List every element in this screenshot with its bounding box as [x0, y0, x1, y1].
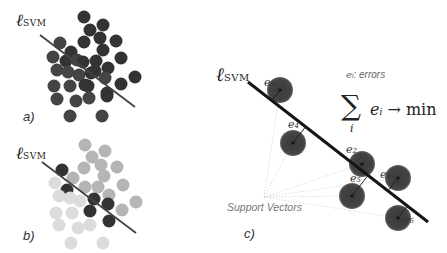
data-point	[101, 90, 114, 103]
data-point	[88, 193, 101, 206]
data-point	[129, 71, 142, 84]
data-point	[99, 72, 112, 85]
data-point	[53, 190, 66, 203]
data-point	[72, 222, 85, 235]
error-label-e5: e5	[350, 172, 361, 185]
error-label-e3: e3	[380, 168, 391, 181]
data-point	[83, 92, 96, 105]
panel-a-scatter	[40, 11, 142, 123]
data-point	[49, 177, 62, 190]
data-point	[95, 159, 108, 172]
data-point	[94, 32, 107, 45]
data-point	[79, 139, 92, 152]
data-point	[48, 80, 61, 93]
data-point	[84, 205, 97, 218]
data-point	[62, 66, 75, 79]
error-label-e6: e6	[403, 213, 414, 226]
data-point	[53, 219, 66, 232]
data-point	[70, 95, 83, 108]
data-point	[98, 170, 111, 183]
data-point	[84, 219, 97, 232]
data-point	[115, 52, 128, 65]
error-label-e2: e2	[346, 143, 357, 156]
sum-subscript: i	[350, 122, 354, 135]
data-point	[74, 195, 87, 208]
data-point	[65, 237, 78, 250]
data-point	[92, 181, 105, 194]
data-point	[96, 110, 109, 123]
panel-a-line-label: ℓSVM	[16, 10, 46, 31]
data-point	[111, 161, 124, 174]
data-point	[78, 36, 91, 49]
data-point	[66, 207, 79, 220]
data-point	[78, 11, 91, 24]
data-point	[130, 196, 143, 209]
data-point	[64, 80, 77, 93]
panel-b-line-label: ℓSVM	[16, 143, 46, 164]
svm-diagram-canvas	[0, 0, 447, 253]
data-point	[110, 35, 123, 48]
minimization-formula: ei → min	[370, 100, 437, 119]
panel-b-scatter	[42, 139, 143, 250]
data-point	[117, 179, 130, 192]
panel-b-label: b)	[23, 228, 35, 243]
data-point	[97, 237, 110, 250]
data-point	[99, 145, 112, 158]
data-point	[51, 93, 64, 106]
panel-a-label: a)	[23, 109, 35, 124]
data-point	[97, 44, 110, 57]
data-point	[64, 110, 77, 123]
error-label-e4: e4	[288, 118, 299, 131]
sum-symbol: ∑	[341, 92, 361, 120]
data-point	[50, 207, 63, 220]
support-vectors-label: Support Vectors	[227, 201, 302, 213]
panel-c-line-label: ℓSVM	[216, 63, 250, 86]
support-vector-pointer	[264, 196, 352, 197]
data-point	[47, 51, 60, 64]
error-label-e1: e1	[264, 76, 275, 89]
data-point	[97, 19, 110, 32]
data-point	[115, 78, 128, 91]
errors-legend: ei: errors	[346, 69, 385, 80]
support-vector-pointer	[264, 178, 398, 197]
data-point	[78, 162, 91, 175]
data-point	[51, 64, 64, 77]
data-point	[116, 204, 129, 217]
panel-c-label: c)	[244, 226, 255, 241]
data-point	[82, 80, 95, 93]
